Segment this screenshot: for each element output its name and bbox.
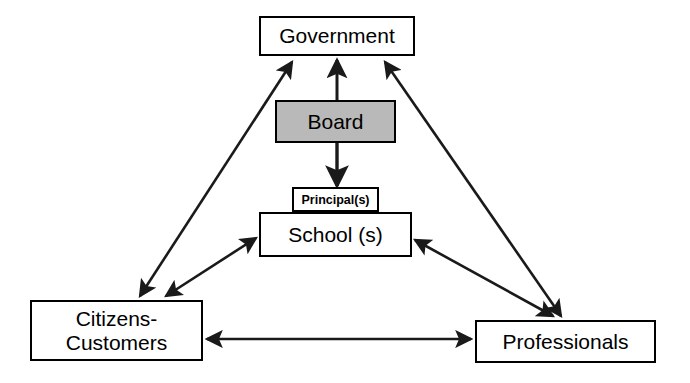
node-board-label: Board (307, 110, 363, 134)
edge-citizens-to-government (140, 62, 292, 296)
node-professionals: Professionals (475, 320, 656, 363)
node-professionals-label: Professionals (502, 330, 628, 354)
edge-school-to-citizens (166, 238, 256, 296)
edge-professionals-to-government (385, 62, 561, 316)
node-school-label: School (s) (288, 223, 383, 247)
node-school: School (s) (259, 212, 412, 257)
node-government-label: Government (279, 24, 395, 48)
node-government: Government (259, 16, 415, 56)
edge-school-to-professionals (415, 240, 553, 316)
node-principals-label: Principal(s) (301, 193, 369, 207)
node-board: Board (275, 100, 396, 143)
node-citizens: Citizens- Customers (30, 300, 203, 361)
node-citizens-label: Citizens- Customers (66, 307, 168, 354)
governance-diagram: Government Board Principal(s) School (s)… (0, 0, 690, 383)
node-principals: Principal(s) (292, 187, 379, 212)
